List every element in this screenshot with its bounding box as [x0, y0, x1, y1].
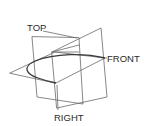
front-plane-label: FRONT	[107, 53, 140, 64]
datum-planes-diagram: TOP FRONT RIGHT	[0, 0, 145, 126]
top-plane-label: TOP	[27, 22, 46, 33]
right-plane-label: RIGHT	[54, 112, 84, 123]
